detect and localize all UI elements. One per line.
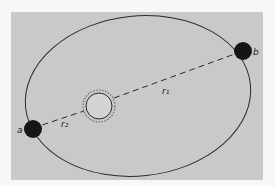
orbit-ellipse (17, 5, 258, 186)
label-r1: r₁ (162, 86, 170, 96)
orbit-diagram: a b r₁ r₂ (0, 0, 275, 186)
label-b: b (253, 47, 259, 57)
sun-icon (83, 90, 115, 122)
label-a: a (17, 125, 23, 135)
planet-b (234, 42, 252, 60)
radius-line-r1 (114, 51, 243, 98)
label-r2: r₂ (61, 119, 69, 129)
planet-a (24, 120, 42, 138)
